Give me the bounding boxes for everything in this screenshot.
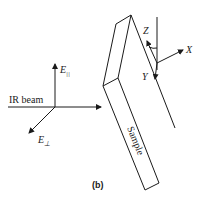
y-axis-label: Y xyxy=(142,71,149,82)
x-axis-arrow xyxy=(157,50,183,63)
x-axis-label: X xyxy=(185,44,193,55)
z-axis-label: Z xyxy=(143,25,149,36)
sample-slab xyxy=(103,15,175,190)
slab-right-edge xyxy=(131,15,175,128)
e-perp-arrow xyxy=(29,107,55,133)
sample-label: Sample xyxy=(125,125,147,157)
diagram-canvas: IR beam E|| E⊥ Sample X Z Y (b) xyxy=(0,0,203,201)
e-perp-label: E⊥ xyxy=(37,134,50,148)
e-parallel-label: E|| xyxy=(59,64,70,78)
figure-caption: (b) xyxy=(92,180,104,190)
slab-top-face xyxy=(103,15,131,86)
ir-beam-label: IR beam xyxy=(9,94,43,105)
y-axis-arrow xyxy=(155,63,157,79)
